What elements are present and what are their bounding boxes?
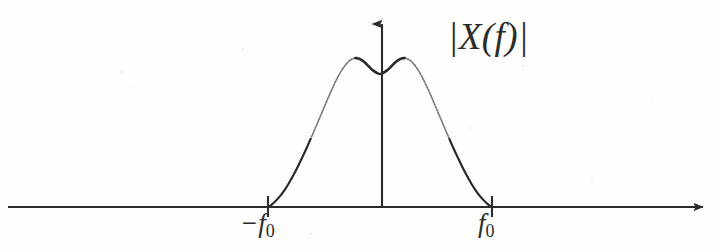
amplitude-label: |X(f)| bbox=[448, 18, 529, 55]
tick-label-neg-f0: −f0 bbox=[240, 210, 275, 240]
tick-label-pos-f0: f0 bbox=[478, 210, 495, 240]
tick-label-pos-f0-subscript: 0 bbox=[486, 221, 495, 241]
tick-label-neg-f0-subscript: 0 bbox=[266, 221, 275, 241]
spectrum-curve-saddle bbox=[355, 58, 404, 74]
spectrum-curve-shoulder-right bbox=[405, 58, 492, 207]
figure-canvas bbox=[0, 0, 720, 252]
spectrum-curve-tail-left bbox=[268, 139, 311, 207]
tick-label-pos-f0-main: f bbox=[478, 208, 486, 238]
spectrum-curve-tail-right bbox=[449, 139, 492, 207]
spectrum-figure: |X(f)| −f0 f0 bbox=[0, 0, 720, 252]
tick-label-neg-f0-main: −f bbox=[240, 208, 266, 238]
spectrum-curve-shoulder-left bbox=[268, 58, 355, 207]
